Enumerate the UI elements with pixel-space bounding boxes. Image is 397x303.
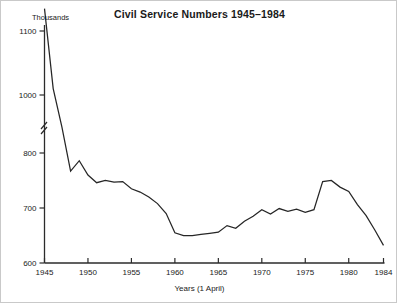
data-series-line xyxy=(45,9,384,246)
chart-figure: Civil Service Numbers 1945–1984 Thousand… xyxy=(0,0,397,303)
x-tick-label-1945: 1945 xyxy=(36,268,54,277)
y-tick-label-1000: 1000 xyxy=(19,91,37,100)
y-tick-label-600: 600 xyxy=(23,259,37,268)
tick-marks-group xyxy=(40,31,384,263)
y-tick-label-1100: 1100 xyxy=(19,27,37,36)
x-tick-label-1950: 1950 xyxy=(79,268,97,277)
x-tick-label-1965: 1965 xyxy=(209,268,227,277)
x-tick-label-1970: 1970 xyxy=(253,268,271,277)
plot-area: 6007008001000110019451950195519601965197… xyxy=(1,1,397,303)
x-tick-label-1975: 1975 xyxy=(296,268,314,277)
x-tick-label-1984: 1984 xyxy=(375,268,393,277)
y-tick-label-700: 700 xyxy=(23,204,37,213)
axes-group xyxy=(45,25,385,263)
tick-labels-group: 6007008001000110019451950195519601965197… xyxy=(19,27,393,277)
x-tick-label-1955: 1955 xyxy=(123,268,141,277)
x-axis-title: Years (1 April) xyxy=(1,284,397,293)
x-tick-label-1980: 1980 xyxy=(340,268,358,277)
x-tick-label-1960: 1960 xyxy=(166,268,184,277)
y-tick-label-800: 800 xyxy=(23,149,37,158)
